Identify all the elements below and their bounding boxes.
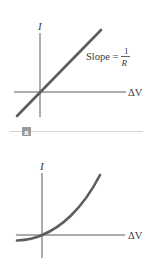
slope-numerator: 1: [124, 46, 129, 56]
y-axis-label-b: I: [39, 160, 45, 172]
slope-denominator: R: [121, 58, 128, 68]
x-axis-label-a: ΔV: [128, 87, 143, 98]
panel-a-caption: a: [10, 127, 143, 137]
chart-a: I ΔV Slope = 1 R: [14, 20, 143, 117]
chart-b: I ΔV: [16, 160, 143, 258]
x-axis-label-b: ΔV: [128, 230, 143, 241]
nonlinear-curve-b: [17, 175, 100, 241]
y-axis-label-a: I: [37, 20, 43, 32]
figure-canvas: I ΔV Slope = 1 R a I ΔV: [0, 0, 155, 265]
linear-curve-a: [17, 30, 101, 116]
slope-prefix: Slope =: [86, 51, 119, 62]
slope-annotation: Slope = 1 R: [86, 46, 130, 68]
